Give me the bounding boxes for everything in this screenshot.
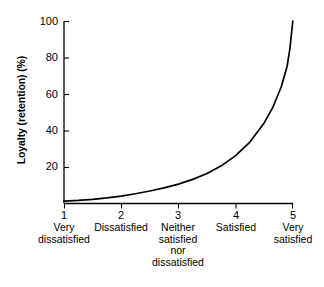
x-tick-number-2: 2 (101, 209, 141, 221)
x-tick-caption-very-satisfied: Very satisfied (253, 222, 324, 245)
x-tick-number-5: 5 (273, 209, 313, 221)
chart-figure: Loyalty (retention) (%) 100 80 60 40 20 … (0, 0, 324, 287)
x-axis-ticks (65, 204, 293, 209)
y-axis-ticks (64, 22, 69, 168)
x-tick-number-1: 1 (44, 209, 84, 221)
loyalty-curve (64, 21, 293, 201)
x-tick-number-4: 4 (216, 209, 256, 221)
x-tick-number-3: 3 (158, 209, 198, 221)
